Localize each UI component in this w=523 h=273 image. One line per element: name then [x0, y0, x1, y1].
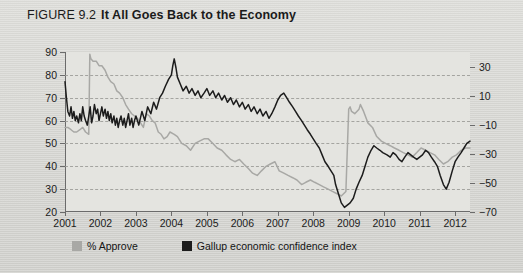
x-tick	[171, 212, 172, 216]
legend-swatch-confidence	[182, 241, 192, 251]
legend-label-approve: % Approve	[87, 240, 138, 252]
figure-container: FIGURE 9.2It All Goes Back to the Econom…	[0, 0, 523, 273]
x-tick-label: 2010	[372, 217, 395, 229]
x-tick-label: 2008	[302, 217, 325, 229]
x-tick-label: 2007	[266, 217, 289, 229]
x-tick	[136, 212, 137, 216]
x-tick-label: 2004	[160, 217, 183, 229]
y-tick-right	[470, 212, 475, 213]
y-tick-right	[470, 154, 475, 155]
figure-headline: It All Goes Back to the Economy	[101, 8, 296, 22]
y-tick-label-left: 40	[45, 160, 57, 172]
x-tick-label: 2002	[89, 217, 112, 229]
figure-number: FIGURE 9.2	[27, 8, 96, 22]
x-tick	[384, 212, 385, 216]
x-tick	[65, 212, 66, 216]
x-tick-label: 2011	[408, 217, 431, 229]
y-tick-label-left: 80	[45, 69, 57, 81]
y-tick-right	[470, 67, 475, 68]
y-tick-label-left: 90	[45, 46, 57, 58]
legend-item-confidence: Gallup economic confidence index	[182, 240, 357, 252]
y-tick-label-right: 10	[479, 90, 491, 102]
x-tick-label: 2009	[337, 217, 360, 229]
x-tick	[207, 212, 208, 216]
series-line-confidence	[65, 59, 470, 208]
x-tick-label: 2003	[124, 217, 147, 229]
y-tick-label-right: −10	[479, 119, 497, 131]
y-tick-right	[470, 125, 475, 126]
x-tick-label: 2005	[195, 217, 218, 229]
legend-item-approve: % Approve	[72, 240, 138, 252]
y-tick-label-left: 30	[45, 183, 57, 195]
chart-plot-area: 2030405060708090 3010−10−30−50−70 200120…	[65, 52, 470, 212]
x-tick	[278, 212, 279, 216]
x-tick	[100, 212, 101, 216]
series-lines	[65, 52, 470, 212]
legend-swatch-approve	[72, 241, 82, 251]
x-tick-label: 2006	[231, 217, 254, 229]
x-tick	[313, 212, 314, 216]
x-tick	[455, 212, 456, 216]
figure-title-bar: FIGURE 9.2It All Goes Back to the Econom…	[27, 8, 296, 22]
y-tick-label-left: 70	[45, 92, 57, 104]
y-tick-label-right: −50	[479, 177, 497, 189]
x-tick-label: 2001	[53, 217, 76, 229]
x-tick	[349, 212, 350, 216]
y-tick-label-right: 30	[479, 61, 491, 73]
x-tick-label: 2012	[443, 217, 466, 229]
y-tick-label-left: 50	[45, 137, 57, 149]
y-tick-label-left: 60	[45, 115, 57, 127]
y-tick-right	[470, 183, 475, 184]
y-tick-label-right: −30	[479, 148, 497, 160]
x-tick	[242, 212, 243, 216]
y-tick-right	[470, 96, 475, 97]
chart-legend: % Approve Gallup economic confidence ind…	[72, 240, 357, 252]
y-tick-label-right: −70	[479, 206, 497, 218]
legend-label-confidence: Gallup economic confidence index	[197, 240, 357, 252]
x-tick	[420, 212, 421, 216]
